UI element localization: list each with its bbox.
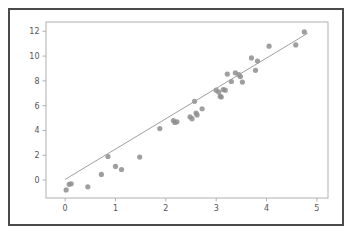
- x-tick-label: 5: [314, 204, 319, 213]
- y-tick-label: 10: [29, 52, 39, 61]
- scatter-point: [293, 42, 298, 47]
- scatter-point: [137, 154, 142, 159]
- scatter-point: [223, 88, 228, 93]
- scatter-point: [119, 167, 124, 172]
- figure-canvas: 012345024681012: [10, 10, 342, 224]
- scatter-point: [225, 71, 230, 76]
- y-tick-label: 12: [29, 27, 39, 36]
- scatter-point: [113, 164, 118, 169]
- y-tick-label: 0: [34, 176, 39, 185]
- scatter-point: [240, 80, 245, 85]
- scatter-point: [266, 44, 271, 49]
- scatter-point: [174, 119, 179, 124]
- regression-line: [65, 33, 308, 179]
- scatter-point: [219, 94, 224, 99]
- scatter-point: [200, 106, 205, 111]
- scatter-point: [189, 116, 194, 121]
- scatter-point: [157, 126, 162, 131]
- x-tick-label: 4: [264, 204, 269, 213]
- x-tick-label: 0: [63, 204, 68, 213]
- scatter-point: [249, 55, 254, 60]
- scatter-point: [253, 68, 258, 73]
- y-tick-label: 6: [34, 102, 39, 111]
- y-tick-label: 2: [34, 151, 39, 160]
- scatter-point: [85, 184, 90, 189]
- scatter-plot: 012345024681012: [10, 10, 342, 224]
- x-tick-label: 3: [214, 204, 219, 213]
- scatter-point: [99, 172, 104, 177]
- x-tick-label: 2: [163, 204, 168, 213]
- y-tick-label: 8: [34, 77, 39, 86]
- scatter-point: [69, 181, 74, 186]
- axes-spines: [46, 22, 328, 198]
- plot-data-layer: [64, 29, 308, 192]
- scatter-point: [194, 112, 199, 117]
- y-tick-label: 4: [34, 126, 39, 135]
- figure-frame: 012345024681012: [8, 8, 344, 226]
- scatter-point: [64, 187, 69, 192]
- x-tick-label: 1: [113, 204, 118, 213]
